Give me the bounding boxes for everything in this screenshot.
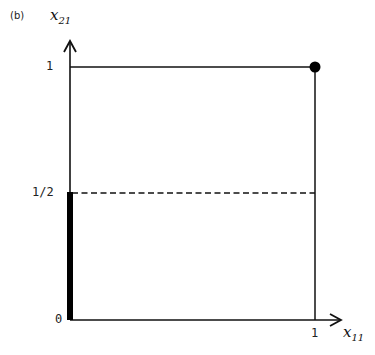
x-tick-one: 1 xyxy=(311,326,318,340)
y-tick-one: 1 xyxy=(46,59,53,73)
x-axis-subscript: 11 xyxy=(351,332,364,343)
y-axis-subscript: 21 xyxy=(58,15,71,26)
point-marker-icon xyxy=(310,62,321,73)
panel-label: (b) xyxy=(10,10,24,21)
y-tick-half: 1/2 xyxy=(32,185,54,199)
x-axis-label: x11 xyxy=(343,323,364,343)
y-axis-label: x21 xyxy=(50,6,71,26)
diagram-svg xyxy=(0,0,375,355)
diagram-canvas: (b) x21 x11 1 1/2 0 1 xyxy=(0,0,375,355)
y-tick-zero: 0 xyxy=(55,312,62,326)
